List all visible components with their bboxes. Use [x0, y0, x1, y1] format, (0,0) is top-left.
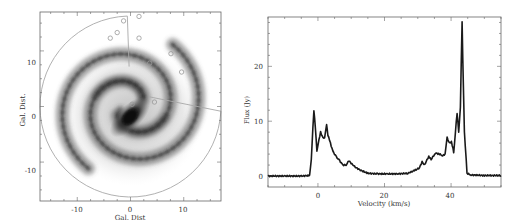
y-tick-label: 10: [254, 118, 263, 126]
y-axis-label: Gal. Dist.: [19, 94, 27, 127]
y-tick-label: -10: [25, 167, 36, 175]
x-tick-label: -10: [71, 206, 82, 214]
y-axis-label: Flux (Jy): [243, 96, 251, 124]
spectrum-chart: 0 20 40 20 10 0 Velocity (km/s) Flux (Jy…: [240, 0, 521, 223]
y-tick-label: 20: [254, 63, 263, 71]
spectrum-line: [268, 22, 501, 177]
galaxy-image: [60, 45, 204, 187]
y-tick-label: 0: [259, 173, 263, 181]
galaxy-map-panel: -10 0 10 10 0 -10 Gal. Dist Gal. Dist.: [0, 0, 240, 223]
x-tick-label: 10: [179, 206, 188, 214]
x-tick-label: 20: [380, 192, 389, 200]
y-tick-label: 10: [27, 59, 36, 67]
spectrum-panel: 0 20 40 20 10 0 Velocity (km/s) Flux (Jy…: [240, 0, 521, 223]
x-tick-label: 40: [446, 192, 455, 200]
x-tick-label: 0: [128, 206, 132, 214]
x-axis-label: Velocity (km/s): [357, 200, 411, 208]
x-tick-label: 0: [316, 192, 320, 200]
x-axis-label: Gal. Dist: [115, 214, 146, 222]
galaxy-map-chart: -10 0 10 10 0 -10 Gal. Dist Gal. Dist.: [0, 0, 240, 223]
y-tick-label: 0: [32, 113, 36, 121]
